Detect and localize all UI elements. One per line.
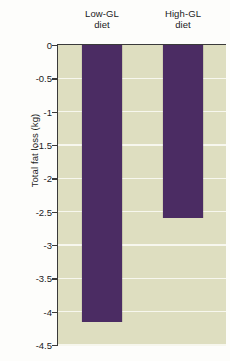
y-axis-tick: [52, 178, 57, 179]
category-label-low-gl-diet: Low-GL diet: [74, 8, 130, 30]
y-axis-tick-label: -3: [4, 240, 52, 251]
y-axis-tick: [52, 278, 57, 279]
y-axis-tick: [52, 245, 57, 246]
y-axis-tick: [52, 112, 57, 113]
y-axis-tick: [52, 312, 57, 313]
y-axis-tick-label: -3.5: [4, 273, 52, 284]
y-axis-tick-label: -2: [4, 173, 52, 184]
bar-low-gl-diet: [82, 45, 122, 322]
y-axis-tick-labels: 0-0.5-1-1.5-2-2.5-3-3.5-4-4.5: [0, 45, 52, 345]
gridline: [58, 344, 226, 345]
y-axis-tick-label: -2.5: [4, 206, 52, 217]
y-axis-line: [57, 44, 58, 346]
y-axis-tick-label: -1: [4, 106, 52, 117]
y-axis-tick: [52, 78, 57, 79]
y-axis-tick-label: -0.5: [4, 73, 52, 84]
y-axis-tick: [52, 145, 57, 146]
y-axis-tick-label: -4.5: [4, 340, 52, 351]
y-axis-tick: [52, 345, 57, 346]
y-axis-tick: [52, 212, 57, 213]
y-axis-tick-label: 0: [4, 40, 52, 51]
y-axis-tick-label: -1.5: [4, 140, 52, 151]
bar-high-gl-diet: [163, 45, 203, 218]
y-axis-tick: [52, 45, 57, 46]
bar-chart: Low-GL diet High-GL diet Total fat loss …: [0, 0, 230, 361]
category-label-high-gl-diet: High-GL diet: [155, 8, 211, 30]
y-axis-tick-label: -4: [4, 306, 52, 317]
